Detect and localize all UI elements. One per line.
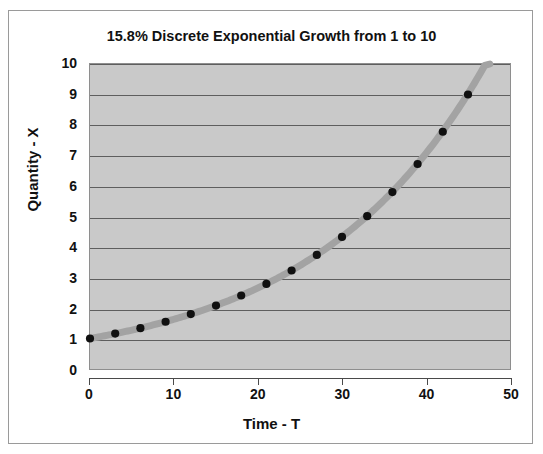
y-tick-label-2: 2 (69, 302, 77, 316)
data-point-marker (388, 188, 396, 196)
data-point-marker (187, 310, 195, 318)
x-tick-label-40: 40 (419, 387, 435, 401)
plot-area (89, 63, 511, 370)
x-tick-label-20: 20 (250, 387, 266, 401)
x-tick-mark-30 (342, 378, 343, 385)
data-point-marker (212, 301, 220, 309)
y-tick-label-3: 3 (69, 271, 77, 285)
data-point-marker (262, 280, 270, 288)
x-axis-title: Time - T (9, 415, 534, 432)
y-axis-tick-labels: 012345678910 (9, 63, 83, 370)
y-tick-label-5: 5 (69, 210, 77, 224)
y-tick-label-7: 7 (69, 148, 77, 162)
data-point-marker (237, 291, 245, 299)
y-tick-label-6: 6 (69, 179, 77, 193)
y-tick-label-4: 4 (69, 240, 77, 254)
data-point-marker (86, 334, 94, 342)
data-point-marker (363, 212, 371, 220)
x-tick-mark-0 (89, 378, 90, 385)
x-tick-mark-20 (258, 378, 259, 385)
y-tick-label-0: 0 (69, 363, 77, 377)
data-point-marker (338, 233, 346, 241)
x-tick-label-10: 10 (166, 387, 182, 401)
chart-title: 15.8% Discrete Exponential Growth from 1… (9, 28, 534, 44)
data-point-marker (111, 330, 119, 338)
x-tick-mark-40 (427, 378, 428, 385)
y-tick-label-1: 1 (69, 332, 77, 346)
data-point-markers (86, 90, 472, 342)
y-tick-label-9: 9 (69, 87, 77, 101)
data-point-marker (288, 266, 296, 274)
x-tick-label-0: 0 (85, 387, 93, 401)
data-point-marker (439, 128, 447, 136)
y-tick-label-10: 10 (61, 56, 77, 70)
data-point-marker (313, 251, 321, 259)
data-point-marker (136, 324, 144, 332)
x-tick-mark-10 (173, 378, 174, 385)
growth-curve-line (90, 64, 490, 339)
x-tick-label-30: 30 (334, 387, 350, 401)
chart-frame: 15.8% Discrete Exponential Growth from 1… (8, 10, 533, 444)
data-point-marker (162, 318, 170, 326)
data-series-exponential-growth (90, 64, 510, 369)
y-tick-label-8: 8 (69, 117, 77, 131)
x-tick-label-50: 50 (503, 387, 519, 401)
x-tick-mark-50 (511, 378, 512, 385)
data-point-marker (464, 90, 472, 98)
x-axis-line (89, 378, 511, 379)
data-point-marker (414, 160, 422, 168)
